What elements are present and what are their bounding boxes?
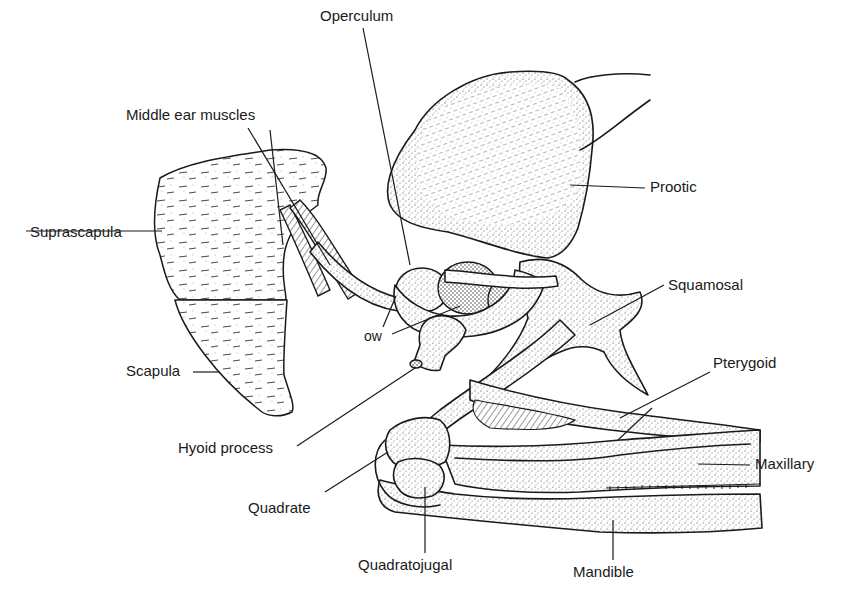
label-pterygoid: Pterygoid: [713, 355, 776, 370]
label-ow: ow: [364, 329, 382, 343]
maxillary-shape: [440, 430, 760, 493]
label-maxillary: Maxillary: [755, 456, 814, 471]
hyoid-process-tip: [410, 360, 422, 368]
anatomical-diagram: Operculum Middle ear muscles Prootic Sup…: [0, 0, 856, 604]
illustration: [0, 0, 856, 604]
label-quadratojugal: Quadratojugal: [358, 557, 452, 572]
label-middle-ear-muscles: Middle ear muscles: [126, 107, 255, 122]
label-mandible: Mandible: [573, 564, 634, 579]
label-squamosal: Squamosal: [668, 277, 743, 292]
label-suprascapula: Suprascapula: [30, 224, 122, 239]
label-scapula: Scapula: [126, 363, 180, 378]
quadratojugal-shape: [394, 459, 445, 498]
label-operculum: Operculum: [320, 8, 393, 23]
label-prootic: Prootic: [650, 179, 697, 194]
label-quadrate: Quadrate: [248, 500, 311, 515]
scapula-shape: [175, 300, 293, 416]
label-hyoid-process: Hyoid process: [178, 440, 273, 455]
